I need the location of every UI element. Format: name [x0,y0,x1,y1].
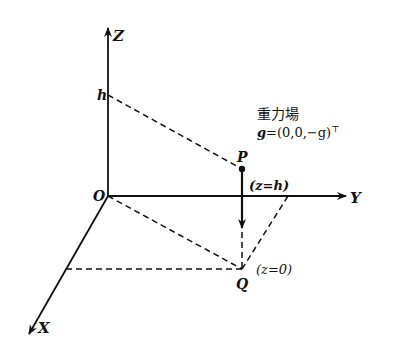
q-height-annotation: (z=0) [256,262,292,277]
point-q-label: Q [236,276,248,292]
height-label: h [97,87,107,103]
height-to-p-dashed-line [108,95,242,169]
gravity-field-title: 重力場 [257,106,299,122]
y-axis-label: Y [350,189,362,207]
p-height-annotation: (z=h) [249,178,289,193]
x-axis [29,196,108,334]
origin-to-q-dashed-line [108,196,242,269]
transpose-symbol: ⊤ [331,124,339,134]
q-to-y-axis-dashed-line [242,196,288,269]
point-p [239,166,245,172]
x-axis-label: X [37,319,51,337]
point-p-label: P [236,149,248,165]
gravity-vector-value: =(0,0,−g) [266,125,331,140]
origin-label: O [93,188,106,204]
z-axis-label: Z [112,27,125,45]
gravity-vector-equation: g=(0,0,−g)⊤ [257,124,340,140]
gravity-field-diagram: Z Y X O h P Q (z=h) (z=0) 重力場 g=(0,0,−g)… [0,0,393,362]
gravity-vector-symbol: g [257,125,266,140]
